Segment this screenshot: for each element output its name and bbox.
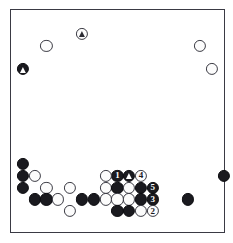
stone-move-number: 1 bbox=[115, 171, 120, 180]
stone-move-number: 2 bbox=[151, 207, 156, 216]
stone-move-number: 5 bbox=[151, 183, 156, 192]
stone-move-number: 4 bbox=[139, 171, 144, 180]
triangle-marker-icon bbox=[20, 67, 26, 73]
triangle-marker-icon bbox=[126, 173, 132, 179]
go-board-diagram: ab14532 bbox=[0, 0, 233, 243]
black-stone[interactable] bbox=[218, 170, 230, 182]
stone-move-number: 3 bbox=[151, 195, 156, 204]
triangle-marker-icon bbox=[79, 31, 85, 37]
